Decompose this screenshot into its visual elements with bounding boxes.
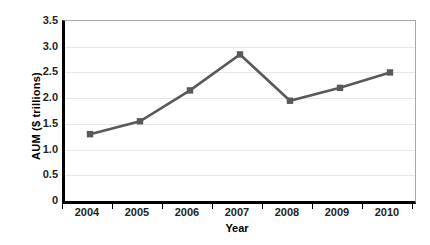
y-axis-tick-labels: 3.53.02.52.01.51.00.50 (22, 0, 58, 245)
data-series-aum (65, 21, 415, 201)
x-tick-label: 2006 (160, 206, 214, 218)
y-tick-label: 0.5 (22, 168, 58, 180)
data-point-marker (337, 85, 343, 91)
series-line (90, 54, 390, 134)
data-point-marker (137, 118, 143, 124)
y-tick-label: 1.0 (22, 143, 58, 155)
plot-area (62, 20, 416, 204)
line-chart-figure: AUM ($ trillions) 3.53.02.52.01.51.00.50… (0, 0, 430, 245)
data-point-marker (237, 51, 243, 57)
y-tick-label: 3.0 (22, 40, 58, 52)
y-tick-label: 3.5 (22, 14, 58, 26)
x-tick-label: 2008 (260, 206, 314, 218)
x-tick-label: 2009 (310, 206, 364, 218)
x-axis-title: Year (62, 222, 412, 234)
x-tick-label: 2004 (60, 206, 114, 218)
data-point-marker (387, 69, 393, 75)
x-tick-label: 2005 (110, 206, 164, 218)
x-tick-label: 2007 (210, 206, 264, 218)
data-point-marker (87, 131, 93, 137)
footnote-text (34, 236, 254, 244)
y-tick-label: 2.5 (22, 65, 58, 77)
data-point-marker (187, 87, 193, 93)
data-point-marker (287, 98, 293, 104)
x-tick-label: 2010 (360, 206, 414, 218)
y-tick-label: 1.5 (22, 117, 58, 129)
x-axis-tick-labels: 2004200520062007200820092010 (62, 206, 412, 222)
y-tick-label: 2.0 (22, 91, 58, 103)
y-tick-label: 0 (22, 194, 58, 206)
